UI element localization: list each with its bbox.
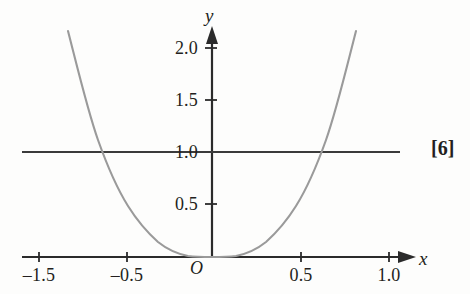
x-tick-label-neg-1-5: –1.5 bbox=[23, 266, 55, 284]
x-tick-label-neg-0-5: –0.5 bbox=[111, 266, 143, 284]
x-tick-label-1-0: 1.0 bbox=[377, 266, 400, 284]
origin-label: O bbox=[190, 259, 203, 277]
x-axis-label: x bbox=[419, 249, 427, 268]
y-tick-label-0-5: 0.5 bbox=[148, 195, 198, 213]
graph-figure: 2.0 1.5 1.0 0.5 –1.5 –0.5 0.5 1.0 O x y … bbox=[0, 0, 470, 294]
x-axis-arrow-icon bbox=[398, 251, 416, 263]
y-axis-label: y bbox=[205, 6, 213, 25]
y-tick-label-1-0: 1.0 bbox=[148, 143, 198, 161]
y-axis-arrow-icon bbox=[206, 26, 218, 44]
plot-area bbox=[0, 0, 470, 294]
marks-badge: [6] bbox=[431, 138, 454, 158]
x-tick-label-0-5: 0.5 bbox=[289, 266, 312, 284]
y-tick-label-1-5: 1.5 bbox=[148, 91, 198, 109]
y-tick-label-2-0: 2.0 bbox=[148, 39, 198, 57]
